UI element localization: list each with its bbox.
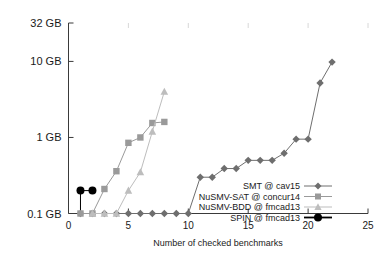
data-point-diamond — [256, 157, 263, 164]
data-point-triangle — [161, 88, 169, 95]
y-tick-label: 1 GB — [36, 131, 61, 143]
data-point-diamond — [268, 157, 275, 164]
legend-label-3: SPIN @ fmcad13 — [230, 213, 300, 223]
legend-label-2: NuSMV-BDD @ fmcad13 — [199, 202, 300, 212]
data-point-diamond — [245, 157, 252, 164]
data-point-diamond — [161, 210, 168, 217]
data-point-diamond — [304, 135, 311, 142]
data-point-diamond — [315, 183, 322, 190]
x-tick-label: 0 — [66, 220, 72, 231]
series-3 — [76, 187, 96, 195]
top-axis-ticks — [69, 23, 369, 28]
x-tick-label: 20 — [303, 220, 315, 231]
x-tick-label: 25 — [362, 220, 374, 231]
data-point-square — [113, 168, 119, 174]
data-point-circle — [76, 187, 84, 195]
x-tick-label: 10 — [183, 220, 195, 231]
x-tick-label: 5 — [126, 220, 132, 231]
data-point-square — [161, 119, 167, 125]
data-point-diamond — [233, 165, 240, 172]
y-axis: 0.1 GB1 GB10 GB32 GB — [27, 17, 73, 220]
data-point-diamond — [125, 210, 132, 217]
legend-label-1: NuSMV-SAT @ concur14 — [199, 192, 300, 202]
series-line — [80, 122, 164, 214]
data-point-square — [137, 134, 143, 140]
y-tick-label: 10 GB — [30, 55, 61, 67]
data-point-diamond — [173, 210, 180, 217]
chart-container: 0.1 GB1 GB10 GB32 GB 0510152025 Number o… — [0, 0, 380, 264]
x-axis-title: Number of checked benchmarks — [153, 238, 283, 248]
data-point-diamond — [221, 165, 228, 172]
data-point-square — [77, 210, 83, 216]
series-line — [92, 92, 164, 214]
legend-label-0: SMT @ cav15 — [243, 181, 300, 191]
data-point-diamond — [316, 79, 323, 86]
data-point-square — [101, 186, 107, 192]
chart-legend: SMT @ cav15NuSMV-SAT @ concur14NuSMV-BDD… — [199, 181, 332, 223]
data-point-diamond — [328, 58, 335, 65]
data-point-circle — [88, 187, 96, 195]
y-tick-label: 32 GB — [30, 17, 61, 29]
data-point-diamond — [137, 210, 144, 217]
chart-svg: 0.1 GB1 GB10 GB32 GB 0510152025 Number o… — [0, 0, 380, 264]
data-point-square — [125, 140, 131, 146]
data-point-circle — [314, 214, 322, 222]
data-point-triangle — [137, 168, 145, 175]
data-point-diamond — [209, 174, 216, 181]
data-point-triangle — [149, 127, 157, 134]
data-point-square — [315, 194, 321, 200]
data-point-diamond — [149, 210, 156, 217]
data-point-diamond — [185, 210, 192, 217]
data-point-triangle — [125, 187, 133, 194]
y-tick-label: 0.1 GB — [27, 208, 61, 220]
data-point-diamond — [197, 174, 204, 181]
